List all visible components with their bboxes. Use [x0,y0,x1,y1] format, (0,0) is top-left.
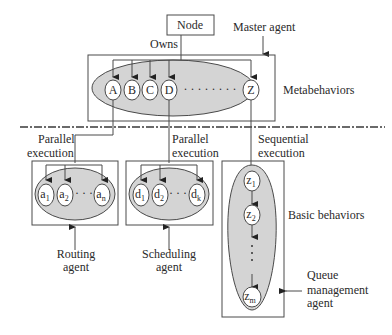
scheduling-exec-label-2: execution [172,146,219,160]
metabehaviors-label: Metabehaviors [283,83,355,97]
basic-behaviors-label: Basic behaviors [288,208,365,222]
metabehavior-A: A [105,80,121,100]
metabehavior-B: B [124,80,140,100]
metabehaviors-ellipsis: · · · · · · · · [184,82,237,96]
routing-exec-label-1: Parallel [38,132,75,146]
routing-node-a1: a1 [38,184,54,206]
svg-text:C: C [146,83,154,97]
routing-node-a2: a2 [57,184,73,206]
scheduling-agent-label-2: agent [156,260,183,274]
svg-text:B: B [128,83,136,97]
routing-exec-label-2: execution [27,146,74,160]
svg-text:Z: Z [247,83,254,97]
svg-text:A: A [109,83,118,97]
queue-exec-label-2: execution [258,146,305,160]
scheduling-agent-label-1: Scheduling [142,247,196,261]
scheduling-ellipsis: · · · [169,186,187,200]
queue-agent-label-3: agent [307,296,334,310]
metabehavior-Z: Z [243,80,259,100]
svg-text:D: D [165,83,174,97]
routing-agent-label-2: agent [63,260,90,274]
queue-node-zm: zm [243,287,261,307]
scheduling-node-d2: d2 [152,184,168,206]
metabehavior-D: D [161,80,177,100]
node-box: Node [167,15,214,35]
owns-label: Owns [150,37,178,51]
queue-exec-label-1: Sequential [258,132,309,146]
queue-node-z2: z2 [244,205,260,225]
node-label: Node [177,18,203,32]
master-agent-label: Master agent [233,20,296,34]
queue-agent-label-2: management [307,283,369,297]
agent-behavior-diagram: Node Owns Master agent A B C D · · · · ·… [0,0,392,335]
metabehavior-C: C [142,80,158,100]
routing-node-an: an [94,184,110,206]
scheduling-exec-label-1: Parallel [172,132,209,146]
routing-agent-label-1: Routing [57,247,96,261]
scheduling-node-d1: d1 [133,184,149,206]
routing-ellipsis: · · · [75,186,93,200]
scheduling-node-dk: dk [189,184,205,206]
queue-node-z1: z1 [244,171,260,191]
queue-agent-label-1: Queue [307,268,338,282]
